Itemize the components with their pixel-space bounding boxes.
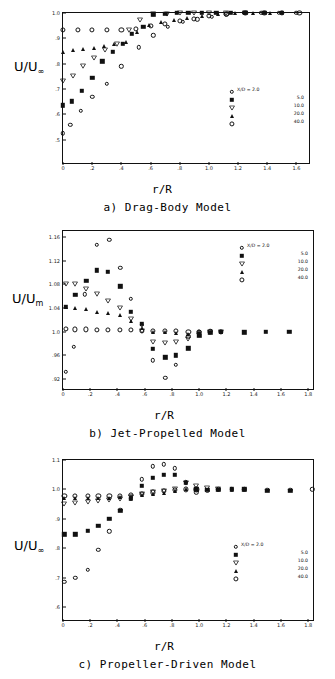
marker-open-triangle-down (239, 261, 245, 266)
marker-open-circle (234, 545, 238, 549)
y-axis-label-c: U/U∞ (14, 539, 44, 557)
y-tick-label: 1.0 (52, 329, 63, 334)
marker-open-circle-large (150, 328, 155, 333)
marker-open-circle-large (148, 24, 153, 29)
plot-area-c: .6.7.8.91.01.10.2.4.6.81.01.21.41.61.8 (62, 459, 314, 621)
marker-open-circle-large (208, 329, 213, 334)
marker-filled-square (230, 98, 234, 102)
y-tick-label: .6 (55, 605, 63, 610)
marker-filled-square (240, 254, 244, 258)
marker-open-circle-large (194, 487, 199, 492)
marker-open-circle-large (206, 13, 211, 18)
panel-drag-body-model: .5.6.7.8.91.00.2.4.6.81.01.21.41.6 U/U∞ … (0, 0, 335, 222)
legend-row: 40.0 (228, 120, 310, 128)
marker-open-circle-large (118, 493, 123, 498)
marker-open-circle-large (262, 10, 267, 15)
marker-open-circle-large (233, 576, 238, 581)
marker-open-circle (240, 246, 244, 250)
y-tick-label: .5 (55, 137, 63, 142)
y-tick-label: 1.0 (52, 11, 63, 16)
caption-b: b) Jet-Propelled Model (0, 428, 335, 440)
figure-wake-velocity-profiles: .5.6.7.8.91.00.2.4.6.81.01.21.41.6 U/U∞ … (0, 0, 335, 679)
x-axis-label-c: r/R (38, 641, 290, 652)
marker-open-circle-large (192, 16, 197, 21)
y-tick-label: 1.16 (49, 234, 63, 239)
marker-open-circle-large (84, 327, 89, 332)
marker-open-circle-large (173, 329, 178, 334)
marker-open-circle-large (119, 27, 124, 32)
marker-open-circle-large (118, 327, 123, 332)
marker-open-circle-large (150, 490, 155, 495)
y-tick-label: .92 (52, 377, 63, 382)
marker-open-circle-large (63, 326, 68, 331)
marker-open-triangle-down (229, 105, 235, 110)
marker-open-circle-large (129, 327, 134, 332)
y-tick-label: .8 (55, 61, 63, 66)
y-tick-label: .8 (55, 546, 63, 551)
caption-a: a) Drag-Body Model (0, 202, 335, 214)
marker-open-circle-large (218, 329, 223, 334)
legend-label: 5.0 (301, 551, 308, 556)
x-axis-label-a: r/R (38, 184, 286, 195)
legend-label: 10.0 (294, 104, 304, 109)
legend-c: X/D = 2.05.010.020.040.0 (232, 543, 314, 583)
marker-filled-triangle-up (230, 114, 234, 118)
marker-open-circle-large (94, 327, 99, 332)
marker-open-circle-large (243, 10, 248, 15)
legend-label: 20.0 (298, 268, 308, 273)
y-tick-label: 1.1 (52, 458, 63, 463)
marker-open-circle-large (85, 493, 90, 498)
y-tick-label: .9 (55, 516, 63, 521)
y-axis-label-sub-a: ∞ (37, 67, 44, 76)
marker-open-circle-large (90, 28, 95, 33)
marker-open-circle-large (96, 493, 101, 498)
marker-open-circle-large (177, 19, 182, 24)
legend-label: 40.0 (298, 575, 308, 580)
panel-jet-propelled-model: .92.961.01.041.081.121.160.2.4.6.81.01.2… (0, 222, 335, 447)
marker-open-circle-large (73, 327, 78, 332)
y-tick-label: .96 (52, 353, 63, 358)
marker-open-circle-large (139, 328, 144, 333)
y-tick-label: 1.0 (52, 487, 63, 492)
legend-label: X/D = 2.0 (247, 244, 269, 249)
y-axis-label-sub-c: ∞ (37, 546, 44, 555)
y-tick-label: .7 (55, 87, 63, 92)
marker-open-circle-large (229, 121, 234, 126)
legend-label: 20.0 (294, 112, 304, 117)
marker-open-triangle-down (233, 560, 239, 565)
y-axis-label-text-b: U/U (12, 291, 35, 306)
marker-filled-triangle-up (234, 569, 238, 573)
marker-filled-triangle-up (240, 270, 244, 274)
legend-row: 40.0 (238, 276, 314, 284)
marker-open-circle-large (161, 489, 166, 494)
marker-open-circle-large (75, 28, 80, 33)
legend-b: X/D = 2.05.010.020.040.0 (238, 244, 314, 284)
legend-label: 5.0 (301, 252, 308, 257)
marker-open-circle-large (163, 329, 168, 334)
marker-open-circle-large (105, 327, 110, 332)
marker-open-circle-large (224, 11, 229, 16)
y-axis-label-a: U/U∞ (14, 60, 44, 78)
marker-open-circle-large (62, 493, 67, 498)
marker-open-circle-large (104, 28, 109, 33)
y-tick-label: 1.08 (49, 282, 63, 287)
y-tick-label: 1.04 (49, 306, 63, 311)
marker-open-circle-large (60, 28, 65, 33)
marker-open-circle-large (297, 10, 302, 15)
y-axis-label-text-c: U/U (14, 538, 37, 553)
panel-propeller-driven-model: .6.7.8.91.01.10.2.4.6.81.01.21.41.61.8 U… (0, 447, 335, 679)
y-axis-label-sub-b: m (35, 299, 43, 308)
series-open-circle-large (63, 460, 313, 620)
y-tick-label: 1.12 (49, 258, 63, 263)
legend-label: X/D = 2.0 (237, 88, 259, 93)
legend-row: 40.0 (232, 575, 314, 583)
marker-open-circle-large (73, 493, 78, 498)
legend-label: 5.0 (297, 96, 304, 101)
y-tick-label: .6 (55, 112, 63, 117)
marker-open-circle-large (197, 329, 202, 334)
legend-a: X/D = 2.05.010.020.040.0 (228, 88, 310, 128)
legend-label: 10.0 (298, 260, 308, 265)
marker-open-circle-large (279, 10, 284, 15)
marker-open-circle-large (133, 26, 138, 31)
marker-open-circle-large (139, 491, 144, 496)
